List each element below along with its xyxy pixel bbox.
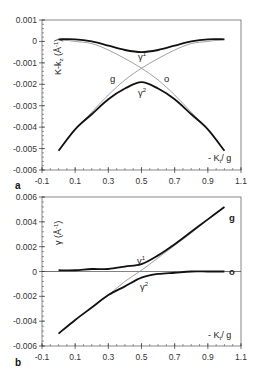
y-tick-label: 0 xyxy=(32,36,37,46)
y-axis-b: 0.0060.0040.0020-0.002-0.004-0.006 xyxy=(13,192,45,351)
x-tick-label: -0.1 xyxy=(35,176,50,186)
x-tick-label: 1.1 xyxy=(235,352,247,362)
x-tick-label: 0.7 xyxy=(169,352,181,362)
x-tick-label: 0.3 xyxy=(102,176,114,186)
y-tick-label: -0.005 xyxy=(13,144,37,154)
y-tick-label: 0 xyxy=(32,267,37,277)
x-tick-label: 0.1 xyxy=(69,176,81,186)
x-tick-label: 0.1 xyxy=(69,352,81,362)
y-axis-title-a: K-kz (Å-1) xyxy=(53,39,64,75)
y-tick-label: 0.001 xyxy=(16,15,38,25)
label-gamma1-a: γ1 xyxy=(138,51,147,62)
x-tick-label: 0.7 xyxy=(169,176,181,186)
x-tick-label: -0.1 xyxy=(35,352,50,362)
y-tick-label: -0.004 xyxy=(13,316,37,326)
y-tick-label: 0.006 xyxy=(16,192,38,202)
y-tick-label: -0.004 xyxy=(13,122,37,132)
y-tick-label: 0.002 xyxy=(16,242,38,252)
y-tick-label: -0.003 xyxy=(13,101,37,111)
label-o-a: o xyxy=(164,73,169,84)
panel-label-b: b xyxy=(15,357,21,368)
chart-panel-a: 0.0010-0.001-0.002-0.003-0.004-0.005-0.0… xyxy=(13,15,247,191)
x-axis-title-b: - Kt/ g xyxy=(208,330,231,341)
y-tick-label: -0.001 xyxy=(13,58,37,68)
x-tick-label: 1.1 xyxy=(235,176,247,186)
label-g-b: g xyxy=(229,212,235,223)
label-gamma2-a: γ2 xyxy=(138,87,147,98)
x-tick-label: 0.9 xyxy=(202,176,214,186)
y-axis-a: 0.0010-0.001-0.002-0.003-0.004-0.005-0.0… xyxy=(13,15,45,175)
x-tick-label: 0.9 xyxy=(202,352,214,362)
y-tick-label: -0.002 xyxy=(13,291,37,301)
figure: 0.0010-0.001-0.002-0.003-0.004-0.005-0.0… xyxy=(0,0,257,372)
curves-b xyxy=(59,207,225,334)
label-o-b: o xyxy=(229,266,235,277)
chart-panel-b: 0.0060.0040.0020-0.002-0.004-0.006 -0.10… xyxy=(13,192,247,368)
x-axis-title-a: - Kt/ g xyxy=(208,153,231,164)
y-tick-label: -0.006 xyxy=(13,165,37,175)
y-tick-label: -0.002 xyxy=(13,79,37,89)
x-tick-label: 0.3 xyxy=(102,352,114,362)
label-g-a: g xyxy=(110,73,115,84)
y-axis-title-b: γ (Å-1) xyxy=(53,221,63,245)
x-tick-label: 0.5 xyxy=(136,176,148,186)
y-tick-label: 0.004 xyxy=(16,217,38,227)
label-gamma1-b: γ1 xyxy=(137,255,146,266)
label-gamma2-b: γ2 xyxy=(140,281,149,292)
y-tick-label: -0.006 xyxy=(13,341,37,351)
x-tick-label: 0.5 xyxy=(136,352,148,362)
panel-label-a: a xyxy=(15,180,21,191)
